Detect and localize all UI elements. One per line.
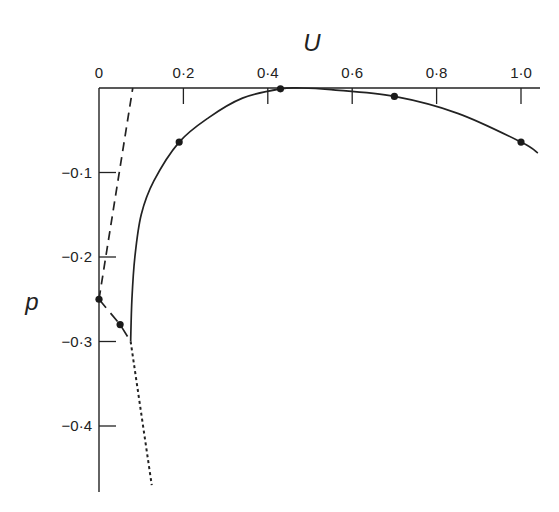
dashed-line bbox=[99, 88, 133, 299]
x-tick-label: 0·2 bbox=[173, 64, 195, 81]
chart: 00·20·40·60·81·0−0·1−0·2−0·3−0·4 U p bbox=[0, 0, 559, 512]
series-group bbox=[99, 88, 538, 485]
data-point-marker bbox=[517, 138, 524, 145]
x-tick-label: 1·0 bbox=[510, 64, 532, 81]
dotted-line bbox=[131, 342, 152, 486]
y-tick-label: −0·1 bbox=[62, 164, 92, 181]
dash-dot-segment bbox=[99, 299, 131, 341]
x-tick-label: 0·6 bbox=[341, 64, 363, 81]
x-tick-label: 0 bbox=[95, 64, 103, 81]
data-point-marker bbox=[117, 321, 124, 328]
data-point-marker bbox=[95, 296, 102, 303]
data-point-marker bbox=[176, 138, 183, 145]
y-tick-label: −0·4 bbox=[62, 417, 92, 434]
x-axis-title: U bbox=[303, 29, 321, 56]
y-axis-title: p bbox=[24, 288, 38, 315]
x-tick-label: 0·8 bbox=[426, 64, 448, 81]
y-tick-label: −0·3 bbox=[62, 333, 92, 350]
x-tick-label: 0·4 bbox=[257, 64, 279, 81]
data-point-marker bbox=[277, 85, 284, 92]
markers-group bbox=[95, 85, 524, 328]
solid-curve bbox=[131, 88, 538, 342]
data-point-marker bbox=[391, 93, 398, 100]
y-tick-label: −0·2 bbox=[62, 248, 92, 265]
